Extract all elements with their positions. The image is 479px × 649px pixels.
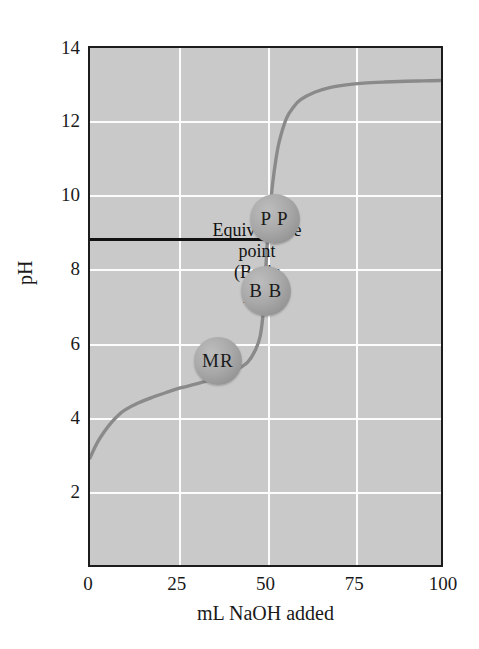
marker-phenolphthalein: P P: [250, 194, 300, 244]
marker-bromthymol-blue: B B: [241, 266, 291, 316]
x-tick-label-25: 25: [167, 574, 186, 593]
y-tick-label-14: 14: [61, 38, 80, 57]
annotation-line-2: point: [194, 241, 320, 262]
titration-curve-figure: Equivalence point (Basic pH) MR B B P P …: [0, 0, 479, 649]
marker-label-phenolphthalein: P P: [261, 208, 289, 230]
y-tick-label-8: 8: [71, 259, 81, 278]
y-axis-title: pH: [14, 261, 37, 285]
y-tick-label-2: 2: [71, 482, 81, 501]
x-tick-label-75: 75: [345, 574, 364, 593]
y-tick-label-4: 4: [71, 408, 81, 427]
marker-label-methyl-red: MR: [202, 350, 234, 372]
plot-area: Equivalence point (Basic pH) MR B B P P: [88, 46, 443, 567]
y-tick-label-6: 6: [71, 333, 81, 352]
marker-methyl-red: MR: [194, 337, 242, 385]
y-axis-ticks: 2 4 6 8 10 12 14: [46, 46, 80, 567]
y-tick-label-10: 10: [61, 185, 80, 204]
marker-label-bromthymol-blue: B B: [249, 280, 282, 302]
x-tick-label-0: 0: [83, 574, 93, 593]
x-tick-label-50: 50: [256, 574, 275, 593]
x-axis-title: mL NaOH added: [88, 602, 443, 625]
x-tick-label-100: 100: [429, 574, 458, 593]
y-tick-label-12: 12: [61, 110, 80, 129]
x-axis-ticks: 0 25 50 75 100: [88, 574, 443, 598]
